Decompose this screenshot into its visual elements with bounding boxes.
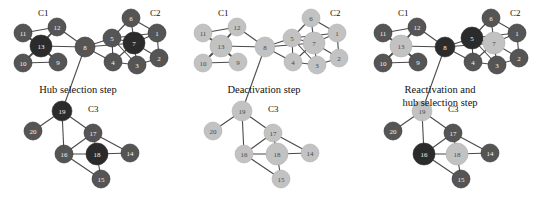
graph-node[interactable]: 5 [461, 27, 483, 49]
graph-node[interactable]: 8 [255, 37, 275, 57]
node-label: 3 [495, 62, 499, 70]
graph-node[interactable]: 20 [24, 122, 42, 140]
node-label: 9 [236, 59, 240, 67]
graph-node[interactable]: 1 [508, 24, 526, 42]
graph-node[interactable]: 11 [374, 24, 392, 42]
graph-node[interactable]: 18 [446, 143, 468, 165]
cluster-label-c3: C3 [268, 104, 279, 114]
graph-node[interactable]: 4 [464, 53, 482, 71]
node-label: 5 [110, 35, 114, 43]
graph-node[interactable]: 4 [104, 53, 122, 71]
graph-node[interactable]: 15 [452, 170, 470, 188]
graph-node[interactable]: 10 [14, 54, 32, 72]
graph-node[interactable]: 14 [301, 144, 319, 162]
node-label: 12 [54, 24, 62, 32]
graph-node[interactable]: 8 [435, 37, 455, 57]
graph-node[interactable]: 13 [390, 35, 412, 57]
graph-node[interactable]: 9 [49, 53, 67, 71]
node-label: 6 [129, 15, 133, 23]
node-label: 11 [20, 30, 27, 38]
graph-node[interactable]: 6 [302, 9, 320, 27]
node-label: 14 [127, 150, 135, 158]
cluster-label-c1: C1 [218, 8, 229, 18]
node-label: 1 [335, 30, 339, 38]
node-label: 15 [278, 176, 286, 184]
node-label: 12 [234, 24, 242, 32]
graph-node[interactable]: 12 [228, 18, 246, 36]
graph-node[interactable]: 5 [103, 29, 121, 47]
graph-node[interactable]: 10 [194, 54, 212, 72]
node-label: 5 [470, 35, 474, 43]
graph-node[interactable]: 2 [150, 49, 168, 67]
node-label: 5 [290, 35, 294, 43]
graph-node[interactable]: 16 [235, 145, 253, 163]
graph-node[interactable]: 5 [283, 29, 301, 47]
graph-node[interactable]: 1 [328, 24, 346, 42]
node-label: 18 [454, 151, 462, 159]
node-label: 2 [517, 55, 521, 63]
node-label: 7 [132, 40, 136, 48]
node-label: 10 [380, 60, 388, 68]
graph-node[interactable]: 11 [14, 24, 32, 42]
cluster-label-c3: C3 [88, 104, 99, 114]
graph-node[interactable]: 7 [123, 32, 145, 54]
node-label: 8 [443, 44, 447, 52]
node-label: 3 [315, 62, 319, 70]
graph-node[interactable]: 9 [229, 53, 247, 71]
graph-node[interactable]: 19 [52, 101, 72, 121]
cluster-label-c1: C1 [38, 8, 49, 18]
graph-node[interactable]: 18 [86, 143, 108, 165]
graph-node[interactable]: 16 [55, 145, 73, 163]
node-label: 19 [239, 108, 247, 116]
node-label: 9 [56, 59, 60, 67]
node-label: 18 [274, 151, 282, 159]
node-label: 6 [309, 15, 313, 23]
graph-node[interactable]: 11 [194, 24, 212, 42]
graph-node[interactable]: 3 [488, 56, 506, 74]
cluster-label-c1: C1 [398, 8, 409, 18]
graph-node[interactable]: 12 [48, 18, 66, 36]
graph-node[interactable]: 15 [272, 170, 290, 188]
graph-node[interactable]: 6 [122, 9, 140, 27]
node-label: 20 [30, 128, 38, 136]
node-label: 10 [200, 60, 208, 68]
graph-node[interactable]: 20 [204, 122, 222, 140]
node-label: 1 [515, 30, 519, 38]
graph-node[interactable]: 4 [284, 53, 302, 71]
graph-node[interactable]: 17 [264, 124, 282, 142]
graph-node[interactable]: 3 [128, 56, 146, 74]
graph-node[interactable]: 14 [121, 144, 139, 162]
node-label: 14 [487, 150, 495, 158]
node-label: 13 [38, 43, 46, 51]
graph-node[interactable]: 7 [303, 32, 325, 54]
graph-node[interactable]: 13 [210, 35, 232, 57]
graph-node[interactable]: 14 [481, 144, 499, 162]
graph-node[interactable]: 17 [444, 124, 462, 142]
graph-node[interactable]: 10 [374, 54, 392, 72]
node-label: 6 [489, 15, 493, 23]
graph-node[interactable]: 6 [482, 9, 500, 27]
node-label: 11 [200, 30, 207, 38]
graph-node[interactable]: 7 [483, 32, 505, 54]
node-label: 17 [270, 130, 278, 138]
node-label: 17 [450, 130, 458, 138]
graph-node[interactable]: 18 [266, 143, 288, 165]
graph-node[interactable]: 20 [384, 122, 402, 140]
graph-node[interactable]: 16 [413, 143, 435, 165]
node-label: 3 [135, 62, 139, 70]
graph-node[interactable]: 12 [408, 18, 426, 36]
graph-node[interactable]: 9 [409, 53, 427, 71]
algorithm-step-figure: 1112131098657143219201716181415C1C2C3Hub… [0, 0, 539, 199]
graph-node[interactable]: 8 [75, 37, 95, 57]
graph-node[interactable]: 1 [148, 24, 166, 42]
graph-node[interactable]: 15 [92, 170, 110, 188]
graph-node[interactable]: 13 [30, 35, 52, 57]
graph-node[interactable]: 17 [84, 124, 102, 142]
graph-node[interactable]: 2 [330, 49, 348, 67]
graph-node[interactable]: 3 [308, 56, 326, 74]
node-label: 16 [241, 151, 249, 159]
graph-node[interactable]: 19 [232, 101, 252, 121]
graph-node[interactable]: 2 [510, 49, 528, 67]
node-label: 4 [291, 59, 295, 67]
node-label: 20 [390, 128, 398, 136]
